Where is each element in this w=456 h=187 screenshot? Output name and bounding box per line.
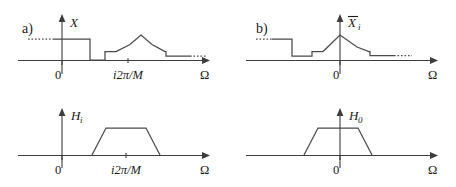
y-axis-label-X: X — [69, 15, 79, 30]
panel-b-top-right: b) X i Ω 0 — [228, 0, 456, 94]
y-axis-arrowhead — [337, 14, 344, 22]
y-axis-label-Xbar-subscript: i — [358, 22, 361, 32]
panel-a-top-left: a) X Ω 0 i2π/M — [0, 0, 228, 94]
panel-tag-b: b) — [256, 21, 268, 37]
tick-label-zero: 0 — [333, 163, 339, 177]
panel-tag-a: a) — [22, 21, 33, 37]
tick-label-zero: 0 — [333, 68, 339, 82]
filter-trapezoid-H0 — [304, 128, 372, 155]
panel-a-bottom-left: H i Ω 0 i2π/M — [0, 94, 228, 187]
x-axis-arrowhead — [430, 57, 438, 64]
panel-b-bottom-right: H 0 Ω 0 — [228, 94, 456, 187]
y-axis-arrowhead — [59, 14, 66, 22]
x-axis-label-omega: Ω — [428, 163, 437, 177]
x-axis-label-omega: Ω — [428, 68, 437, 82]
y-axis-label-H-subscript: i — [80, 115, 83, 125]
tick-label-zero: 0 — [55, 163, 61, 177]
filter-trapezoid-Hi — [92, 128, 160, 155]
x-axis-arrowhead — [202, 57, 210, 64]
tick-label-zero: 0 — [55, 68, 61, 82]
y-axis-arrowhead — [59, 108, 66, 116]
figure-container: a) X Ω 0 i2π/M — [0, 0, 456, 187]
spectrum-curve-Xbar — [272, 35, 394, 56]
y-axis-label-Xbar: X — [347, 15, 357, 30]
y-axis-label-H-subscript: 0 — [358, 115, 363, 125]
x-axis-arrowhead — [430, 152, 438, 159]
tick-label-i2pi-over-M: i2π/M — [111, 163, 141, 177]
x-axis-arrowhead — [202, 152, 210, 159]
y-axis-arrowhead — [337, 108, 344, 116]
x-axis-label-omega: Ω — [200, 163, 209, 177]
spectrum-curve-X — [54, 35, 190, 60]
tick-label-i2pi-over-M: i2π/M — [113, 68, 143, 82]
x-axis-label-omega: Ω — [200, 68, 209, 82]
